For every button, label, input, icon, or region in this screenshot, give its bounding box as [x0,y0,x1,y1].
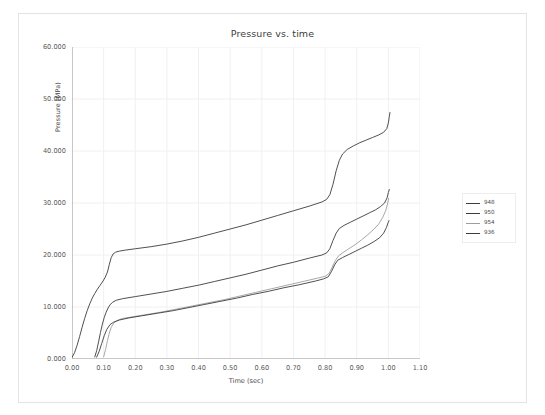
legend-item-950[interactable]: 950 [466,208,512,218]
x-tick-label: 0.80 [318,364,333,372]
x-tick-label: 0.60 [254,364,269,372]
legend-item-948[interactable]: 948 [466,198,512,208]
x-tick-label: 0.30 [160,364,175,372]
y-tick-label: 0.000 [47,355,66,363]
y-axis-label: Pressure (MPa) [54,47,62,167]
series-line-954 [104,198,389,357]
data-series-group [72,113,390,358]
x-tick-label: 0.40 [191,364,206,372]
legend-label: 954 [484,220,495,226]
series-line-950 [95,189,390,356]
x-tick-label: 1.00 [381,364,396,372]
legend-label: 936 [484,230,495,236]
x-axis-label: Time (sec) [72,377,420,385]
y-tick-label: 20.000 [43,251,66,259]
series-line-936 [97,221,389,358]
y-tick-label: 30.000 [43,199,66,207]
legend-item-954[interactable]: 954 [466,218,512,228]
page-title: Pressure vs. time [0,28,545,39]
x-tick-label: 0.00 [65,364,80,372]
y-tick-label: 10.000 [43,303,66,311]
gridlines [72,47,420,359]
legend-swatch-icon [466,233,480,234]
x-tick-label: 0.50 [223,364,238,372]
legend-item-936[interactable]: 936 [466,228,512,238]
x-tick-label: 1.10 [413,364,428,372]
legend-label: 948 [484,200,495,206]
x-tick-label: 0.20 [128,364,143,372]
legend-label: 950 [484,210,495,216]
chart-figure: Pressure vs. time 0.00010.00020.00030.00… [0,0,545,415]
legend-swatch-icon [466,213,480,214]
x-tick-label: 0.90 [349,364,364,372]
plot-canvas [72,47,420,359]
legend-swatch-icon [466,223,480,224]
x-tick-label: 0.10 [96,364,111,372]
x-tick-label: 0.70 [286,364,301,372]
legend-swatch-icon [466,203,480,204]
plot-area: 0.00010.00020.00030.00040.00050.00060.00… [72,47,420,359]
chart-legend: 948950954936 [462,193,516,243]
series-line-948 [72,113,390,358]
